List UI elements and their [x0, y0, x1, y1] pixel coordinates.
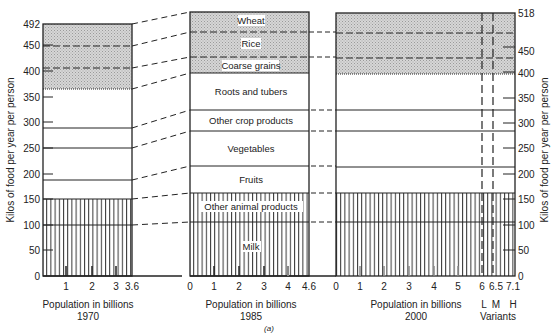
x2000-tick: 1	[357, 281, 363, 292]
right-tick-350: 350	[518, 93, 535, 104]
right-tick-518: 518	[518, 8, 535, 19]
left-tick-50: 50	[29, 245, 41, 256]
x2000-tick: 0	[333, 281, 339, 292]
band-grains-1970	[43, 24, 132, 89]
label-coarse-grains: Coarse grains	[221, 60, 280, 71]
x2000-tick: 6	[479, 281, 485, 292]
x1970-tick: 1	[63, 281, 69, 292]
left-tick-350: 350	[23, 92, 40, 103]
label-fruits: Fruits	[239, 174, 263, 185]
x1970-tick: 2	[89, 281, 95, 292]
x1985-axis-label: Population in billions	[205, 299, 296, 310]
x1985-tick: 0	[187, 281, 193, 292]
left-tick-150: 150	[23, 194, 40, 205]
label-milk: Milk	[243, 241, 260, 252]
x2000-axis-label: Population in billions	[370, 299, 461, 310]
left-tick-450: 450	[23, 40, 40, 51]
left-tick-200: 200	[23, 169, 40, 180]
left-y-axis-label: Kilos of food per year per person	[5, 77, 16, 222]
x1970-tick: 3.6	[125, 281, 139, 292]
x1985-tick: 4.6	[302, 281, 316, 292]
label-other-animal: Other animal products	[204, 201, 298, 212]
variants-label: Variants	[480, 311, 516, 322]
band-animal-2000	[336, 193, 515, 276]
x1985-tick: 4	[285, 281, 291, 292]
x2000-tick: 6.5	[489, 281, 503, 292]
x1985-tick: 2	[236, 281, 242, 292]
label-wheat: Wheat	[237, 15, 265, 26]
connector-lines	[132, 12, 190, 225]
right-tick-250: 250	[518, 143, 535, 154]
right-tick-450: 450	[518, 46, 535, 57]
right-tick-100: 100	[518, 220, 535, 231]
x2000-tick: 3	[406, 281, 412, 292]
year-2000-label: 2000	[405, 311, 428, 322]
right-tick-200: 200	[518, 169, 535, 180]
variant-L-label: L	[481, 299, 487, 310]
right-tick-300: 300	[518, 118, 535, 129]
band-grains-2000	[336, 13, 515, 74]
label-rice: Rice	[241, 38, 260, 49]
variant-M-label: M	[492, 299, 500, 310]
variant-H-label: H	[509, 299, 516, 310]
x2000-tick: 2	[381, 281, 387, 292]
left-tick-300: 300	[23, 117, 40, 128]
band-animal-1970	[43, 199, 132, 276]
figure-caption: (a)	[264, 324, 274, 333]
x1970-axis-label: Population in billions	[42, 299, 133, 310]
gap-connectors	[309, 32, 336, 222]
label-vegetables: Vegetables	[227, 143, 274, 154]
panel-2000: 0 50 100 150 200 250 300 350 400 450 518…	[333, 8, 550, 322]
panel-1985: Wheat Rice Coarse grains Roots and tuber…	[187, 12, 336, 333]
right-tick-400: 400	[518, 68, 535, 79]
panel-1970: 0 50 100 150 200 250 300 350 400 450 492…	[5, 19, 182, 322]
right-tick-150: 150	[518, 194, 535, 205]
x1970-tick: 3	[113, 281, 119, 292]
left-tick-492: 492	[23, 19, 40, 30]
left-tick-400: 400	[23, 66, 40, 77]
right-tick-50: 50	[518, 245, 530, 256]
x2000-tick: 7.1	[506, 281, 520, 292]
x1985-tick: 3	[261, 281, 267, 292]
right-y-axis-label: Kilos of food per year per person	[539, 77, 550, 222]
year-1985-label: 1985	[240, 311, 263, 322]
left-tick-0: 0	[34, 271, 40, 282]
left-tick-100: 100	[23, 220, 40, 231]
x2000-tick: 4	[431, 281, 437, 292]
label-other-crop: Other crop products	[209, 115, 293, 126]
food-consumption-chart: 0 50 100 150 200 250 300 350 400 450 492…	[0, 0, 556, 333]
left-tick-250: 250	[23, 143, 40, 154]
x1985-tick: 1	[211, 281, 217, 292]
label-roots-tubers: Roots and tubers	[215, 86, 288, 97]
x2000-tick: 5	[455, 281, 461, 292]
year-1970-label: 1970	[77, 311, 100, 322]
